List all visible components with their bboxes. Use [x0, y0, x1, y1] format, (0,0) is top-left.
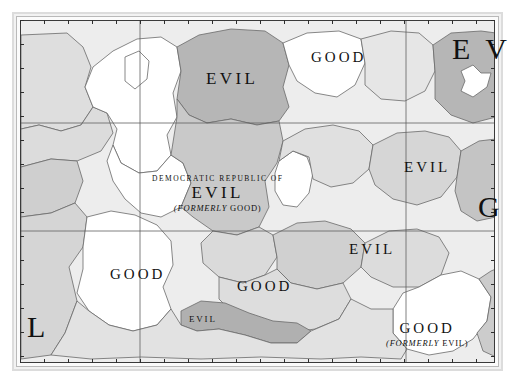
territory-far-east-strip — [455, 139, 495, 221]
territory-evil-north — [177, 29, 289, 125]
territory-west-upper — [21, 33, 93, 131]
map-neatline — [20, 20, 495, 363]
map-territories-svg — [21, 21, 495, 363]
map-figure: EVILGOODDEMOCRATIC REPUBLIC OFEVIL(FORME… — [0, 0, 515, 389]
map-canvas — [21, 21, 495, 363]
territory-lightgray-northeast — [361, 31, 435, 101]
